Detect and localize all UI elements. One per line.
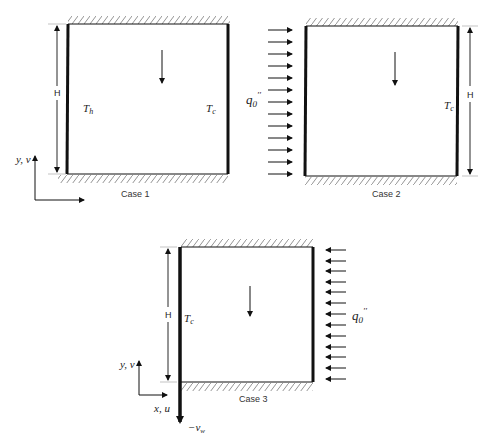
- bottom-wall-hatch: [58, 175, 228, 183]
- case-1: H Th Tc y, v Case 1: [15, 16, 230, 200]
- case-2: q0′′ H Tc Case 2: [246, 18, 478, 199]
- cold-temp-label: Tc: [444, 99, 454, 113]
- heat-flux-arrows: [268, 30, 292, 174]
- diagram-canvas: H Th Tc y, v Case 1: [0, 0, 495, 442]
- diagram-svg: H Th Tc y, v Case 1: [0, 0, 495, 442]
- height-label: H: [467, 90, 474, 100]
- top-wall-hatch: [68, 16, 230, 24]
- cold-wall: [457, 26, 458, 176]
- height-label: H: [54, 88, 61, 98]
- cold-temp-label: Tc: [184, 312, 194, 326]
- heat-flux-label: q0′′: [352, 306, 368, 325]
- case-3: q0′′ H Tc y, v x, u −vw Case 3: [119, 239, 368, 435]
- height-label: H: [165, 310, 172, 320]
- case-1-caption: Case 1: [121, 189, 150, 199]
- heat-flux-label: q0′′: [246, 90, 262, 109]
- cold-temp-label: Tc: [206, 102, 216, 116]
- top-wall-hatch: [181, 239, 313, 247]
- heated-wall: [305, 26, 306, 176]
- x-axis-label: x, u: [153, 402, 170, 414]
- heat-flux-arrows: [326, 250, 346, 379]
- case-2-caption: Case 2: [372, 189, 401, 199]
- wall-velocity-label: −vw: [188, 421, 205, 435]
- y-axis-label: y, v: [15, 153, 31, 165]
- top-wall-hatch: [306, 18, 458, 26]
- y-axis-label: y, v: [119, 358, 135, 370]
- hot-wall: [67, 24, 68, 174]
- bottom-wall-hatch: [305, 177, 457, 185]
- hot-temp-label: Th: [83, 102, 93, 116]
- case-3-caption: Case 3: [239, 394, 268, 404]
- bottom-wall-hatch: [181, 383, 313, 391]
